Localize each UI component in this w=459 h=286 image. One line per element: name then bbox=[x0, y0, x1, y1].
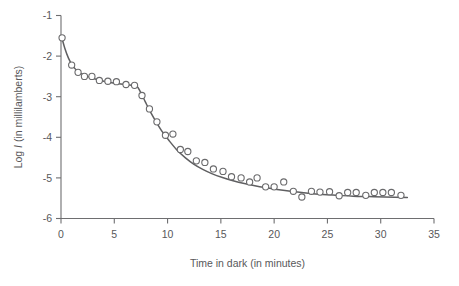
x-tick-label: 35 bbox=[428, 228, 440, 240]
x-tick-label: 30 bbox=[375, 228, 387, 240]
data-point bbox=[398, 192, 404, 198]
dark-adaptation-chart: -1-2-3-4-5-6 05101520253035 Time in dark… bbox=[0, 0, 459, 286]
data-point bbox=[193, 158, 199, 164]
x-tick-label: 10 bbox=[162, 228, 174, 240]
data-point bbox=[96, 77, 102, 83]
data-point bbox=[146, 106, 152, 112]
data-point bbox=[228, 174, 234, 180]
data-point bbox=[271, 184, 277, 190]
data-point bbox=[388, 189, 394, 195]
data-point bbox=[185, 148, 191, 154]
data-point bbox=[69, 62, 75, 68]
y-tick-label: -4 bbox=[43, 131, 52, 143]
data-point-group bbox=[59, 35, 404, 200]
y-tick-label: -3 bbox=[43, 91, 52, 103]
x-tick-label: 15 bbox=[215, 228, 227, 240]
y-tick-label: -5 bbox=[43, 172, 52, 184]
y-axis-title-prefix: Log bbox=[12, 148, 24, 168]
data-point bbox=[238, 175, 244, 181]
data-point bbox=[154, 119, 160, 125]
data-point bbox=[317, 189, 323, 195]
x-axis-title: Time in dark (in minutes) bbox=[190, 257, 305, 269]
x-tick-label: 5 bbox=[111, 228, 117, 240]
data-point bbox=[75, 69, 81, 75]
data-point bbox=[363, 192, 369, 198]
data-point bbox=[281, 179, 287, 185]
data-point bbox=[202, 159, 208, 165]
data-point bbox=[345, 189, 351, 195]
y-axis: -1-2-3-4-5-6 bbox=[43, 9, 61, 224]
data-point bbox=[254, 175, 260, 181]
y-tick-label: -2 bbox=[43, 50, 52, 62]
data-point bbox=[113, 79, 119, 85]
data-point bbox=[299, 194, 305, 200]
data-point bbox=[139, 92, 145, 98]
data-point bbox=[123, 81, 129, 87]
data-point bbox=[290, 188, 296, 194]
data-point bbox=[89, 73, 95, 79]
y-tick-label: -1 bbox=[43, 9, 52, 21]
data-point bbox=[336, 193, 342, 199]
data-point bbox=[247, 179, 253, 185]
y-axis-title: Log I (in millilamberts) bbox=[12, 66, 24, 169]
data-point bbox=[371, 189, 377, 195]
data-point bbox=[308, 188, 314, 194]
data-point bbox=[131, 82, 137, 88]
data-point bbox=[210, 166, 216, 172]
data-point bbox=[177, 146, 183, 152]
data-point bbox=[220, 168, 226, 174]
x-tick-group: 05101520253035 bbox=[58, 219, 440, 240]
plot-area: -1-2-3-4-5-6 05101520253035 Time in dark… bbox=[0, 0, 459, 286]
data-point bbox=[81, 73, 87, 79]
y-axis-title-suffix: (in millilamberts) bbox=[12, 66, 24, 145]
y-tick-label: -6 bbox=[43, 212, 52, 224]
y-tick-group: -1-2-3-4-5-6 bbox=[43, 9, 61, 224]
data-point bbox=[162, 132, 168, 138]
data-point bbox=[105, 78, 111, 84]
data-point bbox=[263, 184, 269, 190]
x-tick-label: 0 bbox=[58, 228, 64, 240]
data-point bbox=[380, 189, 386, 195]
x-tick-label: 20 bbox=[268, 228, 280, 240]
data-point bbox=[326, 189, 332, 195]
data-point bbox=[170, 131, 176, 137]
x-axis: 05101520253035 bbox=[58, 219, 440, 240]
x-tick-label: 25 bbox=[322, 228, 334, 240]
data-point bbox=[353, 189, 359, 195]
data-point bbox=[59, 35, 65, 41]
fitted-curve bbox=[62, 37, 408, 198]
